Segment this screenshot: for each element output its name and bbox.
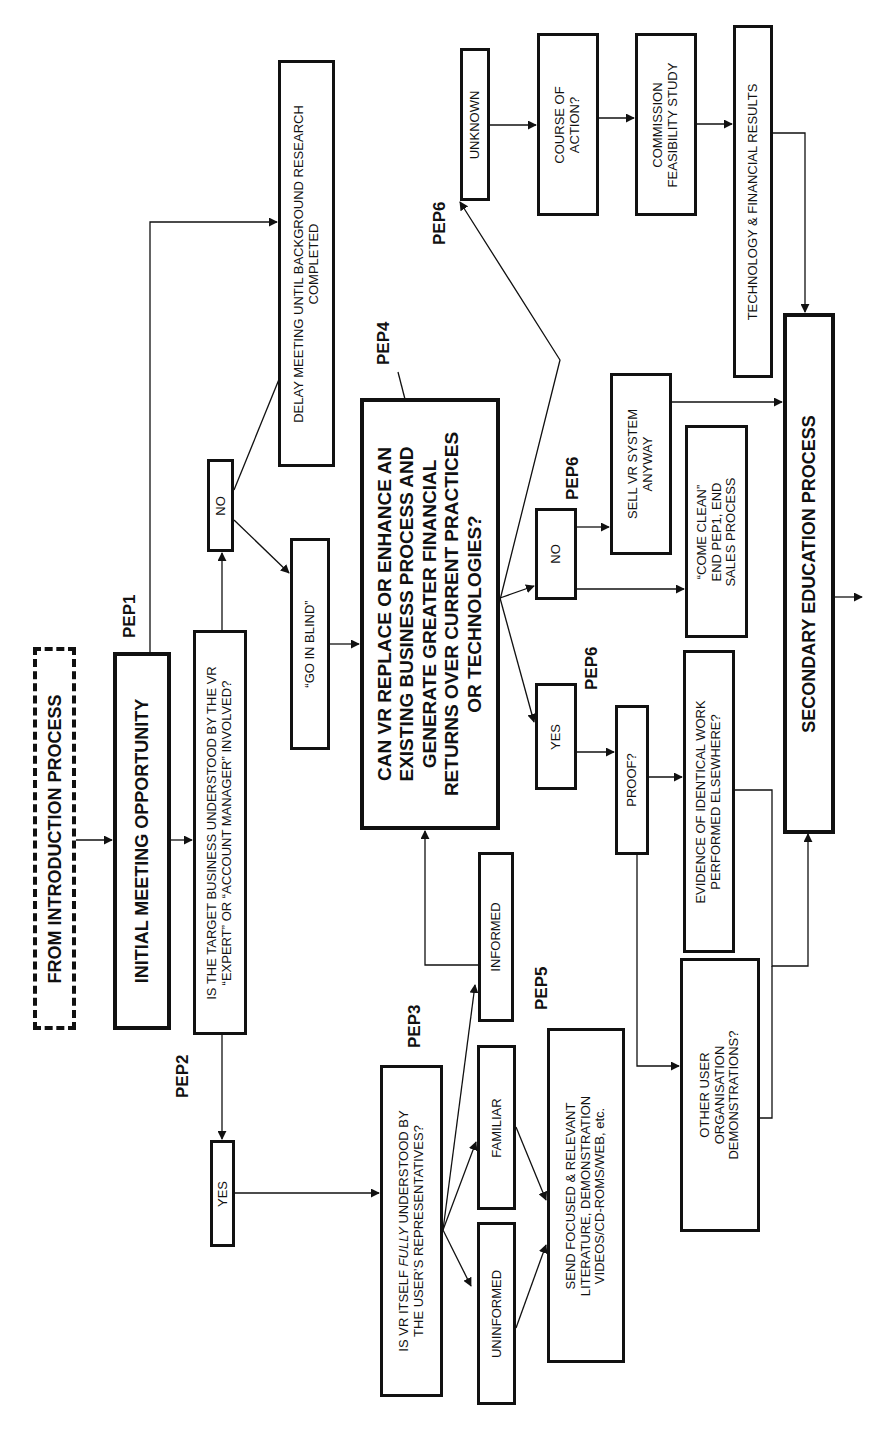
secondary-education-process-box: SECONDARY EDUCATION PROCESS: [783, 313, 835, 834]
node-label-line: GENERATE GREATER FINANCIAL: [419, 432, 441, 796]
node-label-line: OTHER USER: [698, 1030, 713, 1159]
no-pep6-box: NO: [535, 508, 577, 600]
node-label-line: ACTION?: [568, 86, 583, 163]
pep1-label: PEP1: [120, 595, 140, 638]
node-label: FAMILIAR: [489, 1098, 504, 1157]
flowchart-canvas: FROM INTRODUCTION PROCESS INITIAL MEETIN…: [0, 0, 892, 1429]
node-label: INITIAL MEETING OPPORTUNITY: [132, 699, 152, 984]
node-label-line: RETURNS OVER CURRENT PRACTICES: [441, 432, 463, 796]
node-label-line: “COME CLEAN”: [695, 477, 710, 586]
other-user-organisation-box: OTHER USER ORGANISATION DEMONSTRATIONS?: [680, 958, 760, 1232]
pep6-yes-label: PEP6: [582, 647, 602, 690]
node-label: UNKNOWN: [468, 90, 483, 159]
node-label: PROOF?: [625, 753, 640, 806]
initial-meeting-opportunity-box: INITIAL MEETING OPPORTUNITY: [113, 652, 171, 1030]
pep3-label: PEP3: [405, 1005, 425, 1048]
node-label-line: SELL VR SYSTEM: [626, 409, 641, 519]
no-branch-box: NO: [207, 459, 234, 552]
node-label-line: OR TECHNOLOGIES?: [464, 432, 486, 796]
node-label-line: END PEP1, END: [709, 477, 724, 586]
node-label-line: SEND FOCUSED & RELEVANT: [564, 1095, 579, 1295]
node-label-line: PERFORMED ELSEWHERE?: [709, 700, 724, 903]
go-in-blind-box: “GO IN BLIND”: [290, 538, 330, 750]
course-of-action-box: COURSE OF ACTION?: [537, 33, 599, 216]
node-label-line: DEMONSTRATIONS?: [727, 1030, 742, 1159]
node-label-line: LITERATURE, DEMONSTRATION: [579, 1095, 594, 1295]
pep4-label: PEP4: [374, 322, 394, 365]
node-label-line: FEASIBILITY STUDY: [666, 62, 681, 187]
pep6-unknown-label: PEP6: [430, 202, 450, 245]
node-label-line: ORGANISATION: [713, 1030, 728, 1159]
uninformed-box: UNINFORMED: [477, 1222, 516, 1405]
node-label-line: “EXPERT” OR “ACCOUNT MANAGER” INVOLVED?: [220, 666, 235, 1000]
commission-feasibility-study-box: COMMISSION FEASIBILITY STUDY: [635, 33, 697, 216]
node-label-line: SALES PROCESS: [724, 477, 739, 586]
from-introduction-process-box: FROM INTRODUCTION PROCESS: [33, 647, 76, 1030]
node-label: YES: [549, 723, 564, 749]
node-label: FROM INTRODUCTION PROCESS: [44, 694, 64, 983]
pep6-no-label: PEP6: [563, 457, 583, 500]
node-label-line: IS THE TARGET BUSINESS UNDERSTOOD BY THE…: [205, 666, 220, 1000]
node-label: SECONDARY EDUCATION PROCESS: [799, 415, 819, 733]
informed-box: INFORMED: [478, 852, 514, 1022]
technology-financial-results-box: TECHNOLOGY & FINANCIAL RESULTS: [733, 25, 773, 378]
delay-meeting-box: DELAY MEETING UNTIL BACKGROUND RESEARCH …: [278, 60, 335, 467]
familiar-box: FAMILIAR: [477, 1045, 516, 1210]
node-label-line: COMPLETED: [307, 105, 322, 423]
node-label-part: UNDERSTOOD BY: [396, 1110, 411, 1227]
send-focused-literature-box: SEND FOCUSED & RELEVANT LITERATURE, DEMO…: [547, 1028, 625, 1363]
sell-vr-system-anyway-box: SELL VR SYSTEM ANYWAY: [610, 373, 672, 555]
node-label-line: THE USER’S REPRESENTATIVES?: [412, 1110, 427, 1351]
node-label-line: COMMISSION: [651, 62, 666, 187]
target-business-question-box: IS THE TARGET BUSINESS UNDERSTOOD BY THE…: [193, 630, 247, 1035]
node-label-line: VIDEOS/CD-ROMS/WEB, etc.: [593, 1095, 608, 1295]
node-label-line: CAN VR REPLACE OR ENHANCE AN: [374, 432, 396, 796]
node-label: TECHNOLOGY & FINANCIAL RESULTS: [746, 83, 761, 320]
proof-question-box: PROOF?: [615, 705, 649, 855]
node-label: “GO IN BLIND”: [303, 600, 318, 687]
node-label-line: DELAY MEETING UNTIL BACKGROUND RESEARCH: [292, 105, 307, 423]
can-vr-replace-question-box: CAN VR REPLACE OR ENHANCE AN EXISTING BU…: [360, 398, 500, 830]
pep2-label: PEP2: [173, 1055, 193, 1098]
node-label: YES: [215, 1180, 230, 1206]
vr-fully-understood-question-box: IS VR ITSELF FULLY UNDERSTOOD BY THE USE…: [380, 1065, 443, 1397]
come-clean-box: “COME CLEAN” END PEP1, END SALES PROCESS: [685, 425, 748, 638]
node-label-line: ANYWAY: [641, 409, 656, 519]
node-label: INFORMED: [489, 902, 504, 971]
yes-branch-box: YES: [210, 1140, 235, 1247]
evidence-identical-work-box: EVIDENCE OF IDENTICAL WORK PERFORMED ELS…: [683, 650, 735, 953]
node-label-line: EVIDENCE OF IDENTICAL WORK: [694, 700, 709, 903]
unknown-box: UNKNOWN: [460, 48, 490, 201]
node-label: UNINFORMED: [489, 1269, 504, 1357]
node-label-emphasis: FULLY: [396, 1227, 411, 1266]
node-label-part: IS VR ITSELF: [396, 1266, 411, 1351]
yes-pep6-box: YES: [535, 683, 577, 790]
node-label-line: EXISTING BUSINESS PROCESS AND: [396, 432, 418, 796]
node-label: NO: [213, 496, 228, 516]
node-label-line: COURSE OF: [553, 86, 568, 163]
node-label: NO: [549, 544, 564, 564]
pep5-label: PEP5: [532, 967, 552, 1010]
